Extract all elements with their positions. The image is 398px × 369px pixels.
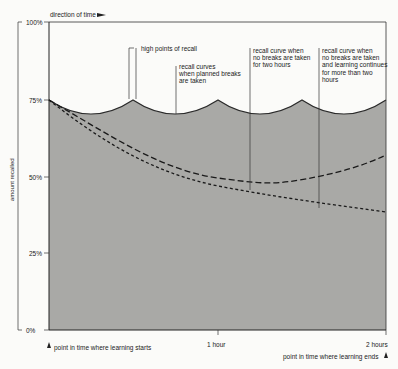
start-marker-icon: [47, 342, 51, 348]
y-tick-50: 50%: [29, 174, 42, 182]
x-tick-1-hour: 1 hour: [207, 341, 225, 349]
y-tick-100: 100%: [26, 19, 43, 27]
learning-starts-label: point in time where learning starts: [54, 344, 151, 352]
y-axis-label: amount recalled: [9, 158, 17, 201]
high-points-annotation: high points of recall: [141, 45, 197, 52]
recall-area: [49, 100, 386, 330]
planned-breaks-annotation: recall curves when planned breaks are ta…: [179, 63, 241, 85]
y-tick-0: 0%: [26, 327, 35, 335]
end-marker-icon: [384, 352, 388, 358]
arrow-right-icon: [97, 13, 106, 17]
learning-ends-label: point in time where learning ends: [283, 353, 378, 361]
direction-of-time-label: direction of time: [50, 11, 96, 19]
x-tick-2-hours: 2 hours: [366, 341, 388, 349]
y-tick-25: 25%: [29, 250, 42, 258]
two-hours-annotation: recall curve when no breaks are taken fo…: [253, 47, 310, 69]
more-hours-annotation: recall curve when no breaks are taken an…: [322, 47, 387, 83]
high-points-leader: [129, 48, 134, 99]
y-tick-75: 75%: [29, 97, 42, 105]
